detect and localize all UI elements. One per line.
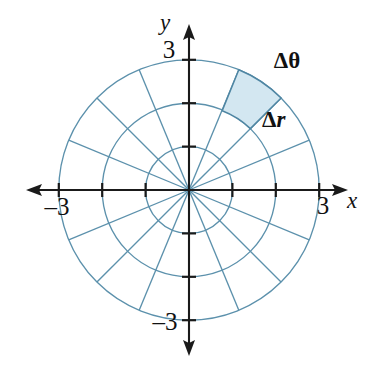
y-axis-label: y (158, 10, 171, 35)
grid-spoke-315 (189, 190, 281, 282)
delta-r-label: Δr (262, 107, 286, 132)
axes-group (26, 24, 348, 356)
delta-r-variable: r (276, 107, 286, 132)
polar-grid-figure: y x 3 –3 –3 3 Δθ Δr (0, 0, 374, 369)
delta-theta-label: Δθ (274, 48, 300, 73)
y-tick-label-neg3: –3 (152, 308, 178, 335)
y-tick-label-pos3: 3 (163, 36, 176, 63)
polar-plot-svg: y x 3 –3 –3 3 Δθ Δr (0, 0, 374, 369)
x-tick-label-pos3: 3 (317, 192, 330, 219)
x-axis-label: x (346, 188, 358, 213)
delta-r-prefix: Δ (262, 107, 277, 132)
grid-spoke-135 (97, 98, 189, 190)
labels-group: y x 3 –3 –3 3 Δθ Δr (44, 10, 358, 335)
x-tick-label-neg3: –3 (44, 193, 70, 220)
grid-spoke-225 (97, 190, 189, 282)
